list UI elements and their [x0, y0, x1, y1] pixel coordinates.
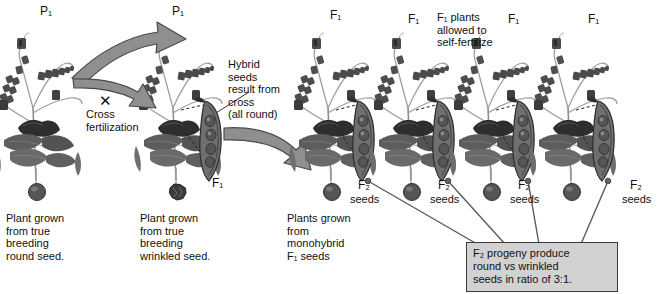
- caption-f1-plants: Plants grown from monohybrid F₁ seeds: [287, 212, 351, 262]
- plant-f1-4: [529, 33, 617, 244]
- callout-line-1: F₂ progeny produce: [473, 247, 611, 260]
- f2-label-1-word: seeds: [350, 193, 379, 206]
- callout-line-3: seeds in ratio of 3:1.: [473, 273, 611, 286]
- label-p1-left: P₁: [40, 4, 52, 18]
- label-f1-plant-3: F₁: [508, 12, 519, 26]
- f2-label-2-generation: F₂: [438, 178, 450, 192]
- label-f1-plant-2: F₁: [408, 12, 419, 26]
- callout-line-2: round vs wrinkled: [473, 260, 611, 273]
- caption-middle-plant: Plant grown from true breeding wrinkled …: [140, 212, 210, 262]
- f2-label-2-word: seeds: [430, 193, 459, 206]
- cross-fertilization-label: Cross fertilization: [86, 108, 139, 133]
- cross-arrow-lower: [73, 79, 156, 108]
- caption-left-plant: Plant grown from true breeding round see…: [6, 212, 64, 262]
- plant-p1-round: [0, 33, 82, 201]
- plant-f1-3: [449, 33, 539, 244]
- f2-label-3-generation: F₂: [518, 178, 530, 192]
- f2-label-3-word: seeds: [510, 193, 539, 206]
- self-fertilize-note: F₁ plants allowed to self-fertilize: [437, 11, 493, 49]
- f2-label-4-word: seeds: [622, 193, 651, 206]
- label-p1-right: P₁: [172, 4, 184, 18]
- hybrid-seeds-note: Hybrid seeds result from cross (all roun…: [228, 58, 280, 121]
- f2-ratio-callout: F₂ progeny produce round vs wrinkled see…: [466, 242, 618, 292]
- label-f1-pod: F₁: [212, 176, 223, 190]
- f1-transfer-arrow: [224, 128, 311, 170]
- cross-arrow-upper: [72, 22, 186, 84]
- label-f1-plant-1: F₁: [330, 8, 341, 22]
- f2-label-4-generation: F₂: [630, 178, 642, 192]
- figure-canvas: P₁ P₁ ✕ Cross fertilization Hybrid seeds…: [0, 0, 663, 294]
- label-f1-plant-4: F₁: [588, 12, 599, 26]
- f2-label-1-generation: F₂: [358, 178, 370, 192]
